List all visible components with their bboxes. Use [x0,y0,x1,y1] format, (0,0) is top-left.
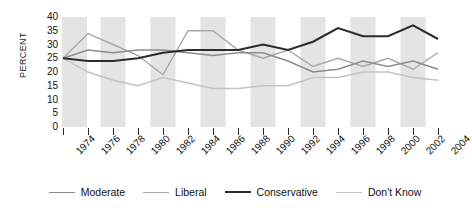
x-tick-label-1974: 1974 [74,133,98,157]
x-axis-tick-labels: 1974197619781980198219841986198819901992… [0,133,470,173]
x-tick-label-1996: 1996 [349,133,373,157]
x-tick-label-1978: 1978 [124,133,148,157]
grid-band [101,17,126,127]
plot-area [62,17,444,127]
grid-band [201,17,226,127]
line-chart-svg [62,17,444,127]
x-tick-label-1976: 1976 [99,133,123,157]
x-tick-label-2002: 2002 [424,133,448,157]
x-tick-label-1986: 1986 [224,133,248,157]
x-tick-label-1980: 1980 [149,133,173,157]
x-tick-label-1988: 1988 [249,133,273,157]
grid-band [401,17,426,127]
y-tick-35: 35 [47,26,58,36]
y-tick-30: 30 [47,40,58,50]
legend-swatch-icon [225,191,251,193]
legend-item-moderate[interactable]: Moderate [49,186,125,198]
x-tick-label-1984: 1984 [199,133,223,157]
legend-item-don-t-know[interactable]: Don't Know [336,186,421,198]
x-tick-label-1982: 1982 [174,133,198,157]
y-axis-title: PERCENT [18,10,28,100]
grid-band [251,17,276,127]
legend-label: Conservative [257,186,318,198]
x-tick-label-2004: 2004 [449,133,472,157]
y-tick-15: 15 [47,81,58,91]
y-tick-25: 25 [47,53,58,63]
x-tick-label-2000: 2000 [399,133,423,157]
y-tick-10: 10 [47,95,58,105]
legend-swatch-icon [49,192,75,193]
y-tick-0: 0 [52,122,58,132]
y-tick-5: 5 [52,108,58,118]
y-tick-40: 40 [47,12,58,22]
grid-band [62,17,87,127]
legend-item-liberal[interactable]: Liberal [143,186,207,198]
y-tick-20: 20 [47,67,58,77]
legend-label: Moderate [81,186,125,198]
legend-item-conservative[interactable]: Conservative [225,186,318,198]
legend-label: Liberal [175,186,207,198]
x-tick-label-1992: 1992 [299,133,323,157]
legend-swatch-icon [336,192,362,193]
x-tick-label-1994: 1994 [324,133,348,157]
chart-legend: ModerateLiberalConservativeDon't Know [0,186,470,198]
grid-band [151,17,176,127]
x-tick-label-1990: 1990 [274,133,298,157]
legend-swatch-icon [143,192,169,193]
legend-label: Don't Know [368,186,421,198]
x-tick-label-1998: 1998 [374,133,398,157]
